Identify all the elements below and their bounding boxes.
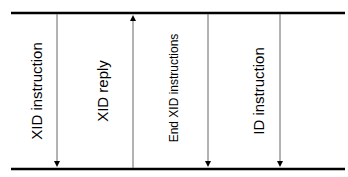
arrowhead-up-icon [130,15,136,21]
message-label: ID instruction [250,47,267,135]
arrowhead-down-icon [205,161,211,167]
message-xid-instruction: XID instruction [28,14,60,167]
sequence-diagram: XID instruction XID reply End XID instru… [0,0,348,177]
message-xid-reply: XID reply [94,15,136,168]
message-end-xid-instructions: End XID instructions [167,14,211,167]
arrowhead-down-icon [277,161,283,167]
message-label: XID reply [94,60,111,122]
message-label: XID instruction [28,42,45,140]
arrowhead-down-icon [54,161,60,167]
message-id-instruction: ID instruction [250,14,283,167]
message-label: End XID instructions [167,34,181,143]
